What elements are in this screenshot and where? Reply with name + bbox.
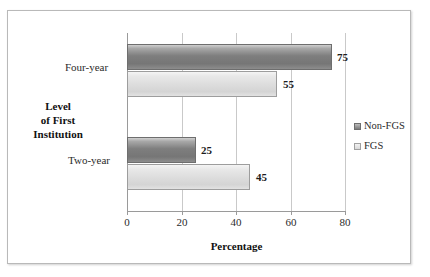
category-label-two-year: Two-year: [68, 154, 110, 166]
chart-panel: 75 55 25 45 0 20 40 60 80 Four-year Two-…: [7, 10, 411, 264]
y-axis-title-line-1: Level: [12, 99, 104, 113]
tick-60: [291, 211, 292, 215]
y-axis-title-line-3: Institution: [12, 127, 104, 141]
bar-four-year-non-fgs[interactable]: [127, 44, 332, 70]
legend-item-fgs[interactable]: FGS: [354, 139, 405, 154]
tick-20: [182, 211, 183, 215]
chart-legend: Non-FGS FGS: [354, 119, 405, 159]
category-label-four-year: Four-year: [65, 61, 108, 73]
x-tick-label-80: 80: [330, 217, 360, 228]
chart-root: 75 55 25 45 0 20 40 60 80 Four-year Two-…: [0, 0, 430, 277]
legend-swatch-icon-non-fgs: [354, 123, 361, 130]
legend-swatch-icon-fgs: [354, 143, 361, 150]
y-axis-title-line-2: of First: [12, 113, 104, 127]
bar-two-year-non-fgs[interactable]: [127, 137, 196, 163]
y-axis-title: Level of First Institution: [12, 99, 104, 141]
tick-40: [236, 211, 237, 215]
x-tick-label-60: 60: [276, 217, 306, 228]
data-label-four-year-fgs: 55: [283, 79, 294, 90]
legend-label-non-fgs: Non-FGS: [364, 121, 405, 132]
bar-four-year-fgs[interactable]: [127, 71, 277, 97]
legend-label-fgs: FGS: [364, 141, 383, 152]
x-tick-label-40: 40: [221, 217, 251, 228]
bar-two-year-fgs[interactable]: [127, 164, 250, 190]
x-tick-label-0: 0: [112, 217, 142, 228]
data-label-two-year-fgs: 45: [256, 172, 267, 183]
tick-80: [345, 211, 346, 215]
data-label-four-year-non-fgs: 75: [337, 52, 348, 63]
data-label-two-year-non-fgs: 25: [201, 145, 212, 156]
tick-0: [127, 211, 128, 215]
x-axis-title: Percentage: [127, 241, 346, 252]
x-tick-label-20: 20: [167, 217, 197, 228]
legend-item-non-fgs[interactable]: Non-FGS: [354, 119, 405, 134]
